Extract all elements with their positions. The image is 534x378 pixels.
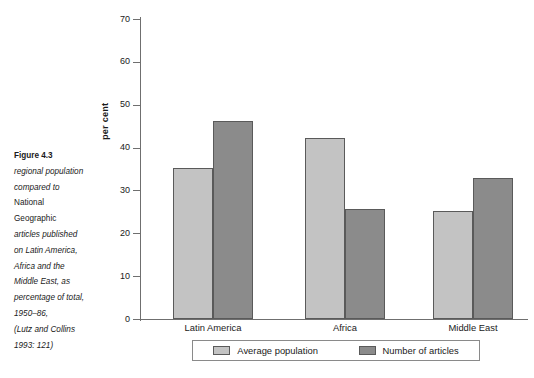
bar-middle-east-number-of-articles bbox=[473, 178, 513, 319]
bar-africa-average-population bbox=[305, 138, 345, 319]
plot-area bbox=[140, 19, 522, 319]
y-axis-label-70: 70 bbox=[100, 15, 130, 24]
legend-swatch-icon-dark bbox=[359, 346, 376, 355]
x-axis-label-latin-america: Latin America bbox=[153, 322, 273, 333]
bar-latin-america-average-population bbox=[173, 168, 213, 319]
chart-legend: Average population Number of articles bbox=[192, 340, 480, 361]
y-axis-tick-labels: 010203040506070 bbox=[96, 0, 130, 378]
legend-item-number-of-articles: Number of articles bbox=[359, 345, 459, 356]
x-axis-line bbox=[140, 319, 528, 320]
y-axis-label-0: 0 bbox=[100, 315, 130, 324]
x-axis-label-africa: Africa bbox=[285, 322, 405, 333]
y-axis-label-20: 20 bbox=[100, 229, 130, 238]
legend-label-number-of-articles: Number of articles bbox=[383, 345, 459, 356]
y-axis-label-40: 40 bbox=[100, 143, 130, 152]
legend-label-average-population: Average population bbox=[237, 345, 318, 356]
x-axis-label-middle-east: Middle East bbox=[413, 322, 533, 333]
y-axis-label-60: 60 bbox=[100, 57, 130, 66]
bar-group-latin-america bbox=[173, 19, 253, 319]
bar-africa-number-of-articles bbox=[345, 209, 385, 319]
y-axis-label-30: 30 bbox=[100, 186, 130, 195]
bar-latin-america-number-of-articles bbox=[213, 121, 253, 319]
y-axis-label-10: 10 bbox=[100, 272, 130, 281]
bar-group-middle-east bbox=[433, 19, 513, 319]
bar-chart: per cent 010203040506070 Latin AmericaAf… bbox=[0, 0, 534, 378]
legend-item-average-population: Average population bbox=[213, 345, 318, 356]
bar-group-africa bbox=[305, 19, 385, 319]
y-axis-label-50: 50 bbox=[100, 100, 130, 109]
bar-middle-east-average-population bbox=[433, 211, 473, 319]
legend-swatch-icon-light bbox=[213, 346, 230, 355]
